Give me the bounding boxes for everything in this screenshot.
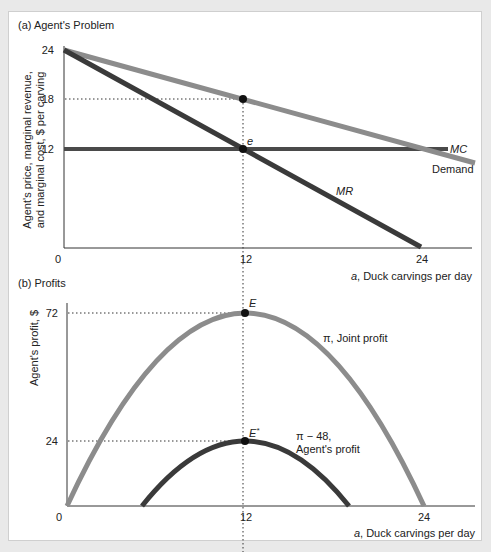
label-E: E — [249, 297, 257, 309]
point-e — [239, 145, 247, 153]
panel-a-xlabel: a, Duck carvings per day — [351, 270, 473, 282]
label-agent-profit-1: π − 48, — [296, 430, 331, 442]
point-E — [241, 309, 249, 317]
label-agent-profit-2: Agent's profit — [296, 443, 360, 455]
point-E-star — [241, 437, 249, 445]
panel-a-xtick-0: 0 — [55, 253, 61, 265]
panel-a-ylabel-line1: Agent's price, marginal revenue, — [21, 71, 33, 228]
panel-b-ytick-72: 72 — [46, 307, 58, 319]
panel-b-xlabel: a, Duck carvings per day — [354, 527, 476, 539]
label-e: e — [247, 135, 253, 147]
panel-a-xtick-24: 24 — [416, 253, 428, 265]
label-E-star: E* — [249, 426, 260, 439]
panel-b-xtick-0: 0 — [56, 511, 62, 523]
panel-a-ytick-24: 24 — [42, 44, 54, 56]
figure-svg: (a) Agent's Problem Agent's price, margi… — [0, 0, 491, 552]
panel-a-title: (a) Agent's Problem — [18, 19, 114, 31]
panel-a-ytick-12: 12 — [42, 143, 54, 155]
monopoly-price-point — [239, 95, 247, 103]
label-mr: MR — [336, 185, 353, 197]
panel-a-xtick-12: 12 — [240, 253, 252, 265]
panel-a-ytick-18: 18 — [42, 93, 54, 105]
panel-b-xtick-24: 24 — [418, 511, 430, 523]
label-mc: MC — [450, 143, 467, 155]
panel-b-xtick-12: 12 — [240, 511, 252, 523]
demand-line — [64, 50, 475, 163]
panel-b-title: (b) Profits — [18, 277, 66, 289]
panel-b-ytick-24: 24 — [46, 435, 58, 447]
label-demand: Demand — [432, 163, 474, 175]
label-joint-profit: π, Joint profit — [323, 332, 387, 344]
panel-b-ylabel: Agent's profit, $ — [28, 310, 40, 386]
